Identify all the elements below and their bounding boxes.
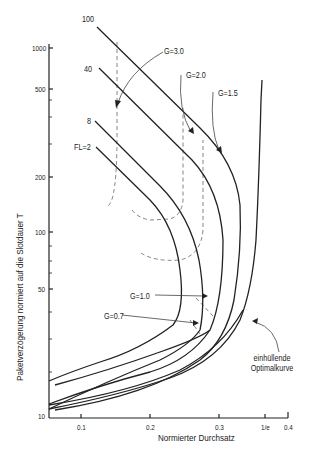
y-tick-200: 200 <box>35 173 46 183</box>
label-g20: G=2.0 <box>186 70 206 80</box>
arrow-g15 <box>212 92 219 150</box>
y-tick-10: 10 <box>38 412 45 422</box>
x-tick-1e: 1/e <box>261 423 270 433</box>
label-envelope-line1: einhüllende <box>251 353 294 363</box>
delay-curves <box>49 27 262 410</box>
x-axis-title: Normierter Durchsatz <box>158 432 235 443</box>
curve-g10-dashed <box>196 298 213 316</box>
label-fl8: 8 <box>87 116 91 126</box>
arrow-g30 <box>118 52 163 103</box>
label-g30: G=3.0 <box>164 46 184 56</box>
curve-envelope <box>49 80 262 409</box>
annotation-arrows <box>115 52 279 352</box>
y-axis-title: Paketverzögerung normiert auf die Slotda… <box>14 213 25 381</box>
label-g07: G=0.7 <box>104 311 124 321</box>
y-tick-1000: 1000 <box>32 44 46 54</box>
x-tick-0.4: 0.4 <box>284 423 293 433</box>
y-axis <box>49 44 53 418</box>
label-g10: G=1.0 <box>130 291 150 301</box>
curve-fl100 <box>55 27 240 410</box>
x-tick-0.1: 0.1 <box>77 423 86 433</box>
arrow-envelope <box>255 322 279 352</box>
label-g15: G=1.5 <box>218 88 238 98</box>
label-envelope-line2: Optimalkurve <box>251 363 294 373</box>
x-axis <box>49 412 288 418</box>
y-tick-500: 500 <box>35 85 46 95</box>
x-tick-0.2: 0.2 <box>146 423 155 433</box>
arrow-g10 <box>155 295 205 296</box>
label-envelope: einhüllende Optimalkurve <box>251 353 294 373</box>
chart-canvas <box>0 0 328 451</box>
arrow-g07 <box>122 315 196 323</box>
curve-fl2 <box>49 147 181 381</box>
curve-g30-dashed <box>108 42 117 206</box>
label-fl40: 40 <box>84 64 92 74</box>
y-tick-50: 50 <box>38 285 45 295</box>
arrow-g20 <box>180 75 191 132</box>
y-tick-100: 100 <box>35 228 46 238</box>
curve-fl40 <box>49 68 223 404</box>
label-fl2: FL=2 <box>74 142 91 152</box>
iso-g-curves <box>108 42 213 334</box>
label-fl100: 100 <box>82 14 94 24</box>
